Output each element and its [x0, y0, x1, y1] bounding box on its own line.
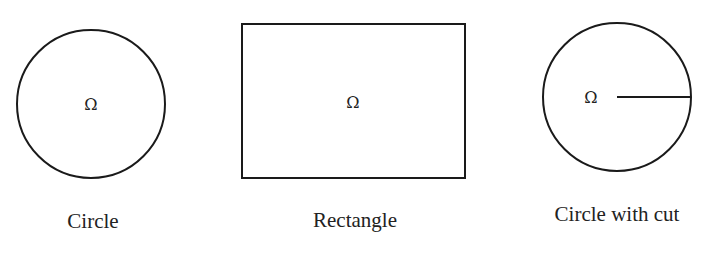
circle-figure: Ω Circle [17, 30, 165, 233]
rectangle-label: Rectangle [313, 208, 397, 232]
domain-shapes-diagram: Ω Circle Ω Rectangle Ω Circle with cut [0, 0, 709, 253]
circle-with-cut-domain-symbol: Ω [584, 88, 597, 107]
circle-with-cut-label: Circle with cut [555, 202, 680, 226]
rectangle-figure: Ω Rectangle [242, 24, 465, 232]
circle-domain-symbol: Ω [84, 95, 97, 114]
circle-label: Circle [67, 209, 118, 233]
rectangle-domain-symbol: Ω [346, 93, 359, 112]
circle-with-cut-figure: Ω Circle with cut [543, 23, 691, 226]
